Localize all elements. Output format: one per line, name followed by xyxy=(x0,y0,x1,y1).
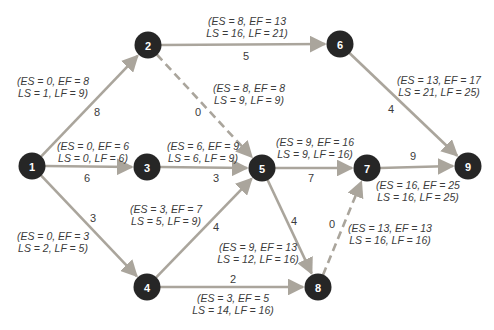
edge-6-9 xyxy=(349,53,457,156)
edge-label-line2: LS = 12, LF = 16) xyxy=(217,254,299,266)
edge-label-line2: LS = 14, LF = 16) xyxy=(192,305,274,317)
edge-label-line1: (ES = 13, EF = 17 xyxy=(397,75,481,87)
node-8: 8 xyxy=(305,274,332,301)
edge-label-line2: LS = 9, LF = 9) xyxy=(213,95,285,107)
edge-label-3-5: (ES = 6, EF = 9 LS = 6, LF = 9) xyxy=(167,141,239,164)
edge-1-4 xyxy=(41,175,137,276)
node-9: 9 xyxy=(455,153,482,180)
edge-label-4-5: (ES = 3, EF = 7 LS = 5, LF = 9) xyxy=(130,204,202,227)
edge-label-line2: LS = 5, LF = 9) xyxy=(130,216,202,228)
edge-label-line2: LS = 2, LF = 5) xyxy=(17,243,89,255)
edge-label-line2: LS = 16, LF = 16) xyxy=(348,235,432,247)
edge-label-line2: LS = 21, LF = 25) xyxy=(397,87,481,99)
edge-duration-6-9: 4 xyxy=(388,103,394,115)
edge-label-line1: (ES = 6, EF = 9 xyxy=(167,141,239,153)
node-4: 4 xyxy=(134,274,161,301)
edge-duration-4-5: 4 xyxy=(213,221,219,233)
edge-duration-1-2: 8 xyxy=(94,106,100,118)
edge-label-5-8: (ES = 9, EF = 13 LS = 12, LF = 16) xyxy=(217,242,299,265)
edge-label-6-9: (ES = 13, EF = 17 LS = 21, LF = 25) xyxy=(397,75,481,98)
edge-duration-1-3: 6 xyxy=(84,172,90,184)
edge-label-line1: (ES = 16, EF = 25 xyxy=(376,180,460,192)
node-7: 7 xyxy=(354,155,381,182)
edge-duration-3-5: 3 xyxy=(213,172,219,184)
edge-label-line1: (ES = 0, EF = 8 xyxy=(17,76,89,88)
edge-2-6 xyxy=(161,44,325,45)
edge-label-line2: LS = 16, LF = 25) xyxy=(376,192,460,204)
edge-label-8-7: (ES = 13, EF = 13 LS = 16, LF = 16) xyxy=(348,223,432,246)
edge-label-line2: LS = 16, LF = 21) xyxy=(206,28,288,40)
edge-label-4-8: (ES = 3, EF = 5 LS = 14, LF = 16) xyxy=(192,293,274,316)
edge-label-line1: (ES = 3, EF = 7 xyxy=(130,204,202,216)
edge-duration-8-7: 0 xyxy=(329,218,335,230)
edge-label-line2: LS = 6, LF = 9) xyxy=(167,153,239,165)
edge-duration-5-7: 7 xyxy=(308,172,314,184)
edge-label-5-7: (ES = 9, EF = 16 LS = 9, LF = 16) xyxy=(276,137,354,160)
edge-7-9 xyxy=(380,166,453,168)
node-3: 3 xyxy=(134,154,161,181)
edge-3-5 xyxy=(160,167,247,168)
edge-label-line1: (ES = 13, EF = 13 xyxy=(348,223,432,235)
activity-network-diagram: 1 2 3 4 5 6 7 8 9 (ES = 0, EF = 8 LS = 1… xyxy=(0,0,494,330)
edge-label-line2: LS = 1, LF = 9) xyxy=(17,88,89,100)
edge-label-line2: LS = 9, LF = 16) xyxy=(276,149,354,161)
edge-label-line1: (ES = 9, EF = 13 xyxy=(217,242,299,254)
edge-label-line1: (ES = 8, EF = 8 xyxy=(213,83,285,95)
edge-label-2-6: (ES = 8, EF = 13 LS = 16, LF = 21) xyxy=(206,16,288,39)
edge-duration-4-8: 2 xyxy=(230,273,236,285)
edge-1-3 xyxy=(45,166,132,167)
edge-label-line1: (ES = 3, EF = 5 xyxy=(192,293,274,305)
node-6: 6 xyxy=(327,31,354,58)
edge-label-line1: (ES = 8, EF = 13 xyxy=(206,16,288,28)
edge-duration-1-4: 3 xyxy=(90,212,96,224)
edge-duration-7-9: 9 xyxy=(410,150,416,162)
edge-label-1-2: (ES = 0, EF = 8 LS = 1, LF = 9) xyxy=(17,76,89,99)
node-1: 1 xyxy=(19,153,46,180)
node-2: 2 xyxy=(135,32,162,59)
edge-label-1-3: (ES = 0, EF = 6 LS = 0, LF = 6) xyxy=(57,141,129,164)
edge-label-7-9: (ES = 16, EF = 25 LS = 16, LF = 25) xyxy=(376,180,460,203)
edge-label-line1: (ES = 0, EF = 3 xyxy=(17,231,89,243)
edge-label-1-4: (ES = 0, EF = 3 LS = 2, LF = 5) xyxy=(17,231,89,254)
edge-duration-2-5: 0 xyxy=(195,106,201,118)
edge-label-line2: LS = 0, LF = 6) xyxy=(57,153,129,165)
edge-label-line1: (ES = 9, EF = 16 xyxy=(276,137,354,149)
edge-label-line1: (ES = 0, EF = 6 xyxy=(57,141,129,153)
edge-duration-5-8: 4 xyxy=(291,215,297,227)
node-5: 5 xyxy=(249,155,276,182)
edge-label-2-5: (ES = 8, EF = 8 LS = 9, LF = 9) xyxy=(213,83,285,106)
edge-duration-2-6: 5 xyxy=(243,50,249,62)
